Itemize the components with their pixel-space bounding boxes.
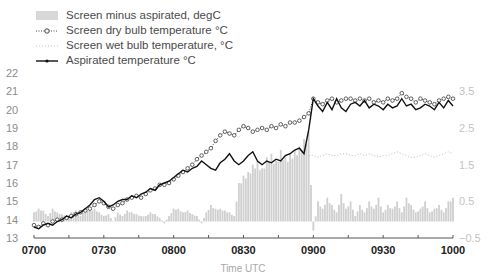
y-left-tick-label: 21: [6, 85, 18, 97]
bar: [117, 212, 119, 221]
bar: [294, 150, 296, 222]
line-series-wet-bulb: [309, 152, 453, 158]
bar: [133, 214, 135, 222]
x-tick-label: 0930: [371, 244, 395, 256]
bar: [215, 209, 217, 222]
bar: [426, 208, 428, 221]
bar: [250, 173, 252, 221]
bar: [433, 209, 435, 222]
bar: [168, 216, 170, 222]
bar: [187, 210, 189, 221]
bar: [191, 214, 193, 221]
dry-bulb-marker: [442, 97, 446, 101]
bar: [240, 183, 242, 221]
chart-legend: Screen minus aspirated, degC Screen dry …: [36, 8, 233, 68]
dry-bulb-marker: [414, 101, 418, 105]
bar: [399, 208, 401, 221]
bar: [443, 212, 445, 221]
bar: [385, 210, 387, 222]
bar: [161, 220, 163, 221]
bar: [103, 216, 105, 222]
bar: [210, 205, 212, 222]
bar: [203, 218, 205, 221]
dry-bulb-marker: [409, 97, 413, 101]
dry-bulb-marker: [256, 128, 260, 132]
bar: [447, 201, 449, 221]
legend-label: Aspirated temperature °C: [66, 53, 196, 68]
dry-bulb-marker: [32, 223, 36, 227]
bar: [40, 211, 42, 222]
bar: [173, 209, 175, 222]
bar: [229, 212, 231, 221]
bar: [331, 205, 333, 222]
y-left-tick-label: 14: [6, 214, 18, 226]
bar: [322, 209, 324, 222]
bar: [124, 214, 126, 222]
bar: [278, 162, 280, 222]
bar: [170, 213, 172, 221]
legend-item-wet-bulb: Screen wet bulb temperature, °C: [36, 38, 233, 53]
bar: [35, 211, 37, 221]
bar: [406, 198, 408, 222]
bar: [340, 194, 342, 222]
dry-bulb-marker: [423, 99, 427, 103]
bar: [98, 212, 100, 221]
bar: [136, 214, 138, 221]
bar: [422, 206, 424, 221]
bar: [175, 210, 177, 222]
y-left-tick-label: 13: [6, 232, 18, 244]
bar: [259, 170, 261, 221]
bar: [245, 178, 247, 221]
y-right-tick-label: 0.5: [459, 195, 474, 207]
bar: [387, 205, 389, 222]
bar: [359, 205, 361, 222]
bar: [282, 160, 284, 221]
bar: [296, 155, 298, 221]
bar: [268, 162, 270, 222]
dry-bulb-marker: [428, 101, 432, 105]
dry-bulb-marker: [395, 97, 399, 101]
x-tick-label: 0830: [231, 244, 255, 256]
bar: [298, 146, 300, 221]
dry-bulb-marker: [186, 167, 190, 171]
bar: [373, 209, 375, 222]
y-left-tick-label: 15: [6, 195, 18, 207]
bar: [201, 221, 203, 223]
bar: [413, 210, 415, 222]
bar: [319, 206, 321, 221]
dry-bulb-marker: [195, 157, 199, 161]
bar: [217, 210, 219, 222]
y-axis-left-ticks: 13141516171819202122: [6, 67, 18, 244]
bar: [315, 216, 317, 221]
bar: [431, 211, 433, 221]
dry-bulb-marker: [116, 203, 120, 207]
dry-bulb-marker: [242, 124, 246, 128]
bar: [271, 154, 273, 222]
bar: [180, 211, 182, 221]
legend-item-screen-minus-aspirated: Screen minus aspirated, degC: [36, 8, 233, 23]
bar: [231, 215, 233, 222]
bar: [247, 172, 249, 222]
bar: [396, 201, 398, 221]
bar: [285, 157, 287, 221]
x-tick-label: 0730: [92, 244, 116, 256]
bar: [366, 208, 368, 221]
y-left-tick-label: 20: [6, 104, 18, 116]
bar: [287, 162, 289, 222]
dotted-circle-line-icon: [36, 25, 58, 37]
x-axis-label: Time UTC: [220, 263, 265, 274]
dry-bulb-marker: [405, 95, 409, 99]
bar: [368, 201, 370, 221]
bar: [415, 212, 417, 221]
bar: [149, 212, 151, 221]
bar: [408, 203, 410, 221]
bar: [166, 220, 168, 222]
legend-label: Screen wet bulb temperature, °C: [66, 38, 233, 53]
legend-label: Screen dry bulb temperature °C: [66, 23, 228, 38]
bar: [184, 212, 186, 221]
bar: [38, 209, 40, 222]
bar: [333, 210, 335, 222]
dry-bulb-marker: [358, 97, 362, 101]
bar: [273, 164, 275, 222]
bar: [261, 168, 263, 221]
